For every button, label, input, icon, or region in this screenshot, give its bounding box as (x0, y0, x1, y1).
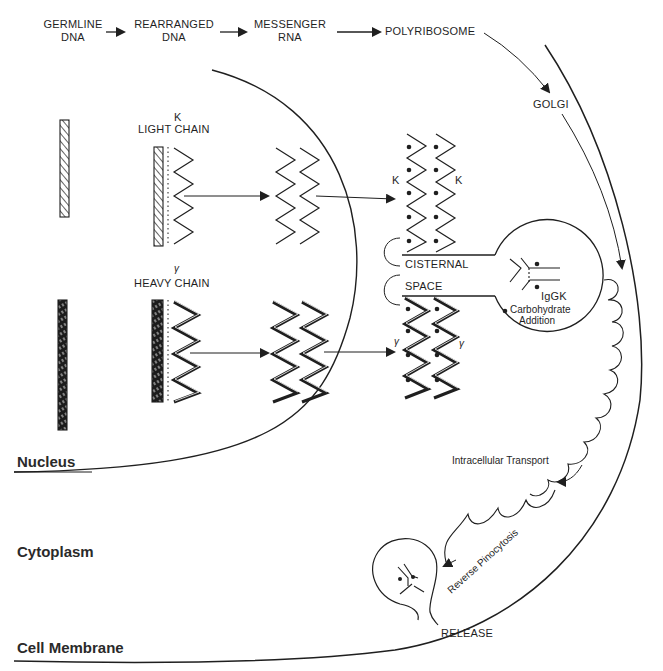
flow-step-mrna-line1: MESSENGER (250, 19, 330, 30)
light-chain-dots (407, 145, 439, 244)
secretory-vesicle (373, 539, 438, 625)
rearranged-light-dna (154, 147, 163, 246)
flow-step-rearranged-line1: REARRANGED (128, 19, 220, 30)
heavy-chain-label-left: γ (394, 337, 399, 347)
cisternal-label: CISTERNAL (405, 259, 469, 270)
light-chain-label-right: K (455, 175, 463, 186)
rearranged-heavy-dna (152, 300, 163, 402)
germline-light-dna (60, 120, 69, 217)
flow-step-rearranged-line2: DNA (128, 32, 220, 43)
iggk-label: IgGK (541, 291, 567, 302)
carbohydrate-label: Carbohydrate (510, 305, 571, 315)
diagram-canvas: GERMLINE DNA REARRANGED DNA MESSENGER RN… (0, 0, 663, 671)
heavy-er-chains (405, 297, 458, 398)
light-er-chains (407, 134, 455, 252)
addition-label: Addition (519, 316, 555, 326)
release-label: RELEASE (441, 628, 493, 639)
cell-membrane (14, 45, 642, 662)
light-chain-greek: K (174, 112, 182, 123)
flow-step-mrna: MESSENGER RNA (250, 19, 330, 43)
light-polyribosome-chains (276, 148, 319, 244)
intracellular-transport-label: Intracellular Transport (452, 456, 549, 466)
nucleus-label: Nucleus (17, 454, 75, 469)
flow-step-mrna-line2: RNA (250, 32, 330, 43)
flow-step-polyribosome: POLYRIBOSOME (385, 26, 475, 37)
light-chain-label: LIGHT CHAIN (138, 124, 210, 135)
cell-membrane-label: Cell Membrane (17, 640, 124, 655)
flow-step-germline-line2: DNA (38, 32, 108, 43)
cytoplasm-label: Cytoplasm (17, 544, 94, 559)
polyribosome-golgi-arrow (484, 33, 549, 92)
flow-step-germline: GERMLINE DNA (38, 19, 108, 43)
heavy-chain-label-right: γ (459, 339, 464, 349)
igg-antibody-icon (510, 258, 560, 290)
heavy-polyribosome-chains (273, 301, 327, 402)
germline-heavy-dna (58, 300, 67, 430)
light-arrow-2 (316, 196, 394, 199)
flow-step-rearranged: REARRANGED DNA (128, 19, 220, 43)
light-chain-label-left: K (392, 175, 400, 186)
space-label: SPACE (405, 281, 442, 292)
golgi-label: GOLGI (533, 99, 569, 110)
flow-step-germline-line1: GERMLINE (38, 19, 108, 30)
heavy-chain-label: HEAVY CHAIN (134, 278, 210, 289)
heavy-chain-greek: γ (174, 264, 179, 274)
